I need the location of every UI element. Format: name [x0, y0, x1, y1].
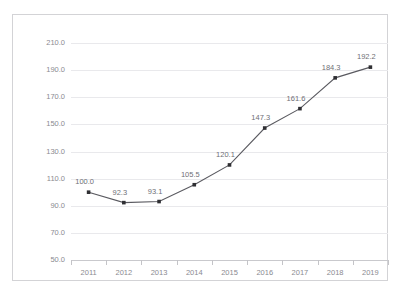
x-axis-tick [388, 260, 389, 265]
x-axis-tick-label: 2014 [186, 268, 203, 277]
data-point-marker [122, 201, 126, 205]
data-point-marker [87, 190, 91, 194]
y-axis-tick-label: 50.0 [35, 255, 65, 264]
x-axis-tick [71, 260, 72, 265]
x-axis-tick-label: 2015 [221, 268, 238, 277]
data-point-marker [228, 163, 232, 167]
plot-area: 210.0190.0170.0150.0130.0110.090.070.050… [71, 43, 388, 260]
x-axis-tick-label: 2019 [362, 268, 379, 277]
data-point-marker [369, 65, 373, 69]
data-point-label: 147.3 [251, 113, 270, 122]
x-axis-tick-label: 2016 [256, 268, 273, 277]
data-point-label: 93.1 [148, 187, 163, 196]
data-point-label: 184.3 [322, 63, 341, 72]
data-point-label: 92.3 [113, 188, 128, 197]
x-axis-tick [318, 260, 319, 265]
data-point-marker [263, 126, 267, 130]
y-axis-tick-label: 170.0 [35, 92, 65, 101]
gridline [71, 260, 388, 261]
x-axis-tick [353, 260, 354, 265]
x-axis-tick [106, 260, 107, 265]
x-axis-tick-label: 2013 [151, 268, 168, 277]
y-axis-tick-label: 70.0 [35, 228, 65, 237]
x-axis-tick [212, 260, 213, 265]
chart-frame: 210.0190.0170.0150.0130.0110.090.070.050… [12, 14, 388, 281]
data-point-marker [298, 107, 302, 111]
data-point-label: 161.6 [287, 94, 306, 103]
data-point-marker [157, 200, 161, 204]
y-axis-tick-label: 90.0 [35, 201, 65, 210]
x-axis-tick [177, 260, 178, 265]
data-point-label: 192.2 [357, 52, 376, 61]
chart-title [0, 0, 404, 1]
y-axis-tick-label: 110.0 [35, 174, 65, 183]
x-axis-tick-label: 2018 [327, 268, 344, 277]
x-axis-tick-label: 2017 [292, 268, 309, 277]
data-point-markers [87, 65, 372, 204]
y-axis-tick-label: 130.0 [35, 147, 65, 156]
x-axis-tick-label: 2011 [81, 268, 97, 277]
x-axis-tick [141, 260, 142, 265]
x-axis-tick [247, 260, 248, 265]
y-axis-tick-label: 210.0 [35, 38, 65, 47]
data-point-marker [333, 76, 337, 80]
data-point-label: 105.5 [181, 170, 200, 179]
x-axis-tick [282, 260, 283, 265]
data-point-label: 120.1 [216, 150, 235, 159]
data-point-marker [192, 183, 196, 187]
line-path [89, 67, 371, 202]
x-axis-tick-label: 2012 [115, 268, 132, 277]
y-axis-tick-label: 150.0 [35, 119, 65, 128]
y-axis-tick-label: 190.0 [35, 65, 65, 74]
data-point-label: 100.0 [75, 177, 94, 186]
